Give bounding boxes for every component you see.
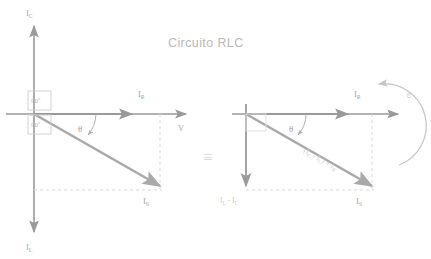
label-resultant-expression: (IC - IL) + IR <box>302 146 340 173</box>
figure-canvas: Circuito RLC 90º 90º θ IC <box>0 0 431 259</box>
page-title: Circuito RLC <box>168 36 244 50</box>
equivalence-symbol: ≡ <box>203 148 213 167</box>
vector-is <box>34 114 160 186</box>
omega-label: ω <box>405 93 414 98</box>
theta-label-right: θ <box>289 124 293 134</box>
theta-arc-right <box>298 114 306 135</box>
angle-box-upper-label: 90º <box>31 97 41 105</box>
label-ir-left: IR <box>138 89 145 100</box>
label-il-left: IL <box>26 242 33 253</box>
label-is-left: IS <box>143 196 149 207</box>
label-ir-right: IR <box>354 89 361 100</box>
label-net-reactive: IL - IC <box>220 196 239 206</box>
phasor-figure: Circuito RLC 90º 90º θ IC <box>0 0 431 259</box>
theta-label-left: θ <box>78 124 82 134</box>
phasor-diagram-right: θ ω IR IS IL - IC (IC - IL) + IR <box>220 84 426 207</box>
omega-rotation-arc <box>379 84 426 165</box>
theta-arc-left <box>88 114 96 135</box>
label-ic-left: IC <box>26 8 33 19</box>
label-is-right: IS <box>356 196 362 207</box>
label-v-left: V <box>178 123 185 133</box>
phasor-diagram-left: 90º 90º θ IC IL IR V IS <box>6 8 186 253</box>
angle-box-lower-label: 90º <box>31 121 41 129</box>
